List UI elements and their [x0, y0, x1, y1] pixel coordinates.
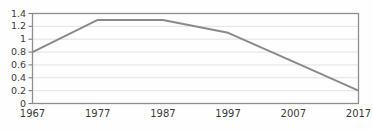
- x-axis-tick-label: 2017: [346, 108, 371, 119]
- x-axis-tick-label: 1967: [20, 108, 45, 119]
- y-axis-tick-label: 0.4: [11, 72, 26, 83]
- y-axis-tick-label: 1.4: [11, 8, 26, 19]
- x-axis-tick-label: 1977: [85, 108, 110, 119]
- y-axis-tick-label: 1: [20, 33, 26, 44]
- chart-canvas: 00.20.40.60.811.21.4 1967197719871997200…: [0, 0, 373, 131]
- x-axis-tick-label: 2007: [281, 108, 306, 119]
- y-axis-tick-label: 0.6: [11, 59, 26, 70]
- gridlines: [33, 26, 359, 90]
- x-axis-tick-label: 1987: [150, 108, 175, 119]
- x-axis-tick-label: 1997: [215, 108, 240, 119]
- y-axis-tick-labels: 00.20.40.60.811.21.4: [11, 8, 26, 109]
- y-axis-tick-label: 0.8: [11, 46, 26, 57]
- y-axis-tick-label: 0.2: [11, 85, 26, 96]
- data-series-lines: [33, 20, 359, 91]
- x-axis-tick-labels: 196719771987199720072017: [20, 108, 371, 119]
- line-chart: 00.20.40.60.811.21.4 1967197719871997200…: [0, 0, 373, 131]
- series-line: [33, 20, 359, 91]
- y-axis-tick-label: 1.2: [11, 20, 26, 31]
